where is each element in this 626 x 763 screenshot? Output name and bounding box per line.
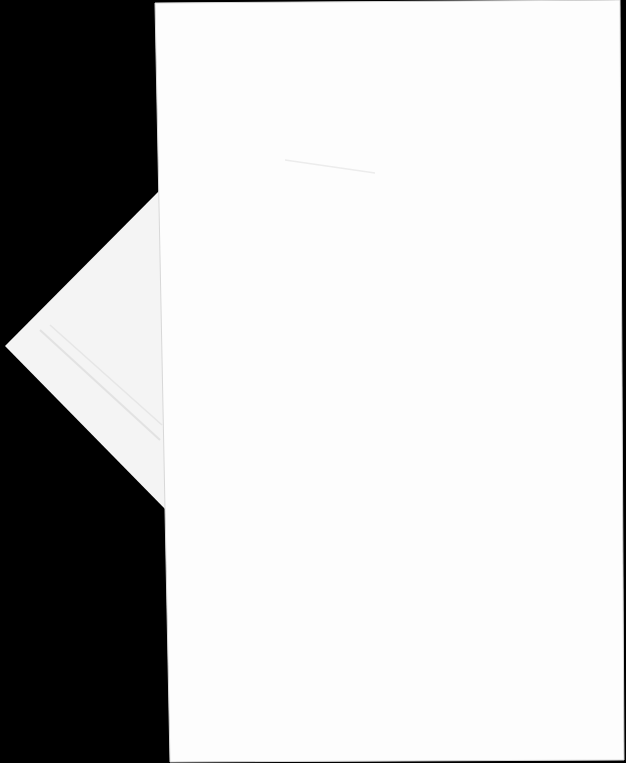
white-paper-sheet [155, 0, 624, 762]
photo-scene [0, 0, 626, 763]
paper-photo [0, 0, 626, 763]
